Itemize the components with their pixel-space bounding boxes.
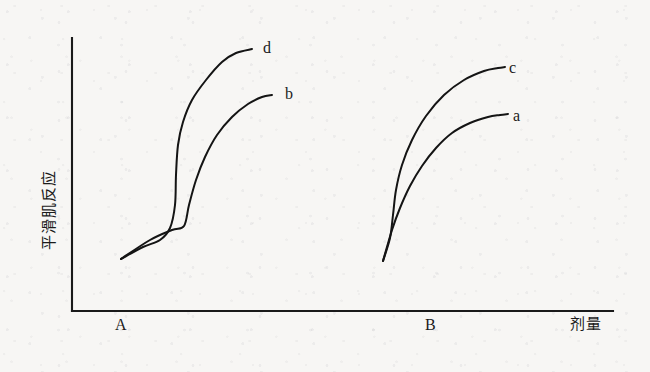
group-label-b: B	[425, 317, 436, 333]
group-label-a: A	[115, 317, 127, 333]
y-axis-label: 平滑肌反应	[42, 170, 57, 250]
curve-label-b: b	[285, 86, 293, 102]
figure-canvas: d b c a A B 剂量 平滑肌反应	[0, 0, 650, 372]
plot-area	[0, 0, 650, 372]
curve-b	[121, 95, 272, 259]
curve-c	[383, 67, 505, 261]
curve-label-a: a	[513, 108, 520, 124]
curve-label-c: c	[509, 60, 516, 76]
curve-d	[121, 49, 252, 259]
x-axis-label: 剂量	[570, 317, 602, 332]
curve-label-d: d	[263, 40, 271, 56]
curve-a	[383, 114, 508, 261]
